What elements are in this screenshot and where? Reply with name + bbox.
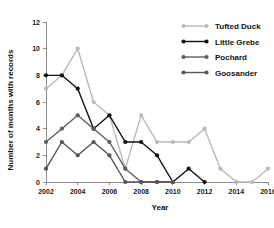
data-point [76, 113, 80, 117]
data-point [266, 167, 270, 171]
x-axis-title: Year [152, 203, 169, 212]
data-point [250, 180, 254, 184]
data-point [139, 140, 143, 144]
chart-legend: Tufted DuckLittle GrebePochardGoosander [181, 22, 261, 78]
y-axis-title: Number of months with records [6, 49, 15, 170]
legend-label: Tufted Duck [215, 22, 261, 31]
legend-item-little-grebe[interactable]: Little Grebe [181, 38, 260, 47]
legend-item-tufted-duck[interactable]: Tufted Duck [181, 22, 261, 31]
y-tick-label: 4 [36, 125, 40, 132]
data-point [202, 127, 206, 131]
data-point [60, 140, 64, 144]
series-goosander [44, 140, 175, 184]
legend-item-goosander[interactable]: Goosander [181, 69, 257, 78]
legend-item-pochard[interactable]: Pochard [181, 53, 247, 62]
y-tick-label: 6 [36, 99, 40, 106]
legend-label: Goosander [215, 69, 257, 78]
y-tick-label: 10 [32, 45, 40, 52]
data-point [218, 167, 222, 171]
legend-label: Little Grebe [215, 38, 260, 47]
y-tick-label: 12 [32, 19, 40, 26]
data-point [123, 167, 127, 171]
data-point [202, 180, 206, 184]
y-tick-label: 0 [36, 179, 40, 186]
data-series-group [44, 47, 270, 185]
data-point [44, 140, 48, 144]
data-point [60, 127, 64, 131]
data-point [76, 47, 80, 51]
y-tick-label: 8 [36, 72, 40, 79]
data-point [107, 140, 111, 144]
y-axis: 024681012 [32, 19, 46, 186]
data-point [91, 140, 95, 144]
data-point [123, 140, 127, 144]
y-tick-label: 2 [36, 152, 40, 159]
data-point [187, 167, 191, 171]
data-point [155, 140, 159, 144]
data-point [139, 113, 143, 117]
data-point [234, 180, 238, 184]
data-point [107, 153, 111, 157]
chart-container: 024681012 200220042006200820102012201420… [0, 0, 274, 228]
data-point [60, 73, 64, 77]
x-tick-label: 2010 [165, 188, 181, 195]
data-point [44, 87, 48, 91]
data-point [123, 180, 127, 184]
x-tick-label: 2004 [70, 188, 86, 195]
line-chart: 024681012 200220042006200820102012201420… [0, 0, 274, 228]
data-point [155, 180, 159, 184]
x-tick-label: 2006 [102, 188, 118, 195]
x-tick-label: 2014 [228, 188, 244, 195]
legend-label: Pochard [215, 53, 247, 62]
data-point [171, 180, 175, 184]
x-tick-label: 2016 [260, 188, 274, 195]
x-tick-label: 2002 [38, 188, 54, 195]
data-point [76, 153, 80, 157]
data-point [155, 153, 159, 157]
data-point [91, 100, 95, 104]
data-point [107, 113, 111, 117]
data-point [187, 140, 191, 144]
data-point [44, 73, 48, 77]
x-axis: 20022004200620082010201220142016 [38, 182, 274, 195]
data-point [139, 180, 143, 184]
data-point [76, 87, 80, 91]
x-tick-label: 2008 [133, 188, 149, 195]
series-pochard [44, 113, 175, 184]
x-tick-label: 2012 [197, 188, 213, 195]
data-point [171, 140, 175, 144]
data-point [91, 127, 95, 131]
data-point [44, 167, 48, 171]
